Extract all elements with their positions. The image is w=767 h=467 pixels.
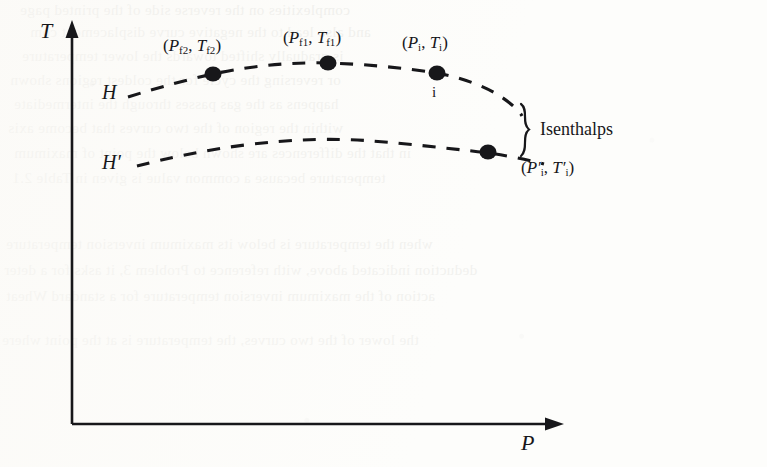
label-point-i: i	[432, 84, 436, 101]
label-pf2-t: T	[197, 36, 206, 55]
marker-pf2	[205, 67, 222, 82]
label-pi-p-sub: i	[418, 41, 421, 53]
marker-pi-prime	[480, 145, 497, 160]
label-pf2-t-sub: f2	[206, 44, 215, 56]
state-point-markers	[205, 56, 497, 160]
label-pi: (Pi, Ti)	[402, 33, 448, 53]
label-pi-prime: (P′i, T′i)	[521, 158, 574, 178]
label-pi-t-sub: i	[439, 41, 442, 53]
pressure-axis	[72, 418, 564, 431]
label-pf1-t: T	[317, 28, 326, 47]
label-pf1-t-sub: f1	[326, 36, 335, 48]
label-pi-prime-p-sub: i	[541, 166, 544, 178]
isenthalp-diagram	[0, 0, 767, 467]
lower-curve-label: H′	[102, 151, 121, 174]
label-pf2-p: P	[169, 36, 179, 55]
label-pf2-p-sub: f2	[179, 44, 188, 56]
temperature-axis	[66, 20, 79, 424]
label-pi-prime-t: T′	[552, 158, 565, 177]
label-pf1-p: P	[289, 28, 299, 47]
label-pi-prime-p: P′	[527, 158, 541, 177]
label-pi-prime-t-sub: i	[566, 166, 569, 178]
label-pf1: (Pf1, Tf1)	[283, 28, 341, 48]
label-pi-t: T	[430, 33, 439, 52]
marker-pf1	[320, 56, 337, 71]
isenthalps-annotation-label: Isenthalps	[540, 119, 613, 140]
marker-pi	[429, 66, 446, 81]
isenthalps-brace	[521, 104, 529, 156]
label-pf2: (Pf2, Tf2)	[163, 36, 221, 56]
label-pi-p: P	[408, 33, 418, 52]
y-axis-label: T	[40, 18, 52, 44]
label-pf1-p-sub: f1	[299, 36, 308, 48]
upper-curve-label: H	[102, 81, 116, 104]
figure-page: complexities on the reverse side of the …	[0, 0, 767, 467]
x-axis-label: P	[521, 430, 534, 456]
upper-isenthalp-curve	[128, 63, 522, 116]
